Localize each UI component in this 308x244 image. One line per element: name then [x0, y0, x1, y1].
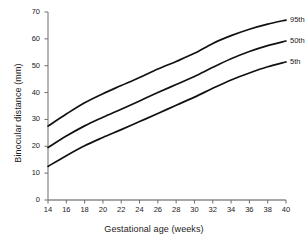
series-label-5th: 5th: [290, 57, 300, 66]
x-tick-label: 22: [113, 205, 129, 214]
x-tick-label: 14: [40, 205, 56, 214]
x-tick-label: 28: [168, 205, 184, 214]
x-tick-label: 26: [150, 205, 166, 214]
x-tick-label: 30: [186, 205, 202, 214]
x-tick-label: 24: [132, 205, 148, 214]
y-tick-label: 0: [24, 195, 40, 204]
y-tick-label: 50: [24, 61, 40, 70]
x-tick-label: 20: [95, 205, 111, 214]
series-label-95th: 95th: [290, 15, 305, 24]
y-tick-label: 40: [24, 88, 40, 97]
series-line-50th: [48, 41, 286, 148]
y-tick-label: 10: [24, 168, 40, 177]
x-tick-label: 32: [205, 205, 221, 214]
y-tick-label: 70: [24, 7, 40, 16]
x-tick-label: 34: [223, 205, 239, 214]
chart-figure: Gestational age (weeks) Binocular distan…: [0, 0, 308, 244]
chart-axes: [48, 12, 286, 200]
series-line-5th: [48, 62, 286, 166]
series-label-50th: 50th: [290, 36, 305, 45]
x-tick-label: 16: [58, 205, 74, 214]
x-tick-label: 38: [260, 205, 276, 214]
y-tick-marks: [45, 12, 49, 200]
x-tick-label: 18: [77, 205, 93, 214]
y-axis-title: Binocular distance (mm): [13, 43, 23, 183]
y-tick-label: 20: [24, 141, 40, 150]
x-axis-title: Gestational age (weeks): [0, 224, 308, 234]
chart-series-lines: [48, 20, 286, 166]
x-tick-label: 40: [278, 205, 294, 214]
x-tick-label: 36: [241, 205, 257, 214]
y-tick-label: 60: [24, 34, 40, 43]
y-tick-label: 30: [24, 114, 40, 123]
